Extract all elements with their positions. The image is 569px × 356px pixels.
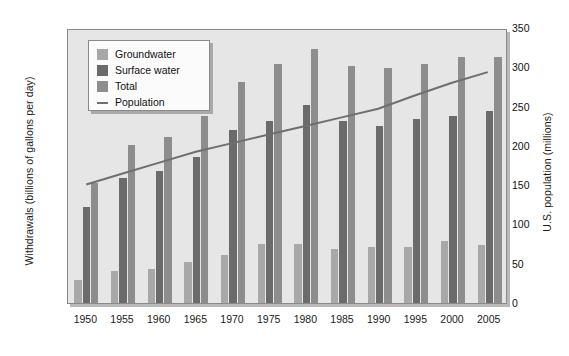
- y-tick-right: 0: [512, 297, 552, 309]
- bar-groundwater-1995: [404, 247, 411, 303]
- y-tick-right: 150: [512, 179, 552, 191]
- bar-surface-water-2005: [486, 111, 493, 304]
- legend-color-swatch: [97, 65, 108, 76]
- y-axis-left-title: Withdrawals (billions of gallons per day…: [23, 56, 35, 286]
- x-tick: 1990: [359, 313, 399, 325]
- x-tick: 1960: [139, 313, 179, 325]
- x-tick: 1985: [322, 313, 362, 325]
- bar-groundwater-1985: [331, 249, 338, 303]
- bar-surface-water-1985: [339, 121, 346, 303]
- x-tick: 2005: [469, 313, 509, 325]
- bar-total-1960: [164, 137, 171, 303]
- bar-total-1950: [91, 183, 98, 303]
- chart-legend: GroundwaterSurface waterTotalPopulation: [88, 40, 210, 111]
- bar-total-1965: [201, 116, 208, 303]
- bar-groundwater-1980: [294, 244, 301, 303]
- y-tick-right: 250: [512, 101, 552, 113]
- bar-groundwater-1975: [258, 244, 265, 303]
- bar-total-1980: [311, 49, 318, 303]
- bar-surface-water-1965: [193, 157, 200, 303]
- bar-groundwater-2000: [441, 241, 448, 303]
- bar-groundwater-1955: [111, 271, 118, 303]
- bar-groundwater-1965: [184, 262, 191, 303]
- x-tick: 1995: [395, 313, 435, 325]
- legend-color-swatch: [97, 81, 108, 92]
- bar-groundwater-1950: [74, 280, 81, 303]
- bar-surface-water-1980: [303, 105, 310, 303]
- bar-groundwater-1990: [368, 247, 375, 303]
- legend-label: Population: [115, 97, 165, 108]
- bar-total-1955: [128, 145, 135, 303]
- bar-groundwater-1960: [148, 269, 155, 303]
- bar-total-2000: [458, 57, 465, 303]
- y-tick-right: 50: [512, 258, 552, 270]
- bar-surface-water-2000: [449, 116, 456, 303]
- legend-label: Surface water: [115, 65, 180, 76]
- bar-surface-water-1955: [119, 178, 126, 303]
- legend-item: Total: [97, 79, 209, 94]
- x-tick: 1955: [102, 313, 142, 325]
- bar-surface-water-1995: [413, 119, 420, 303]
- x-tick: 2000: [432, 313, 472, 325]
- bar-surface-water-1960: [156, 171, 163, 303]
- bar-total-2005: [494, 57, 501, 303]
- legend-item: Groundwater: [97, 47, 209, 62]
- y-tick-right: 100: [512, 218, 552, 230]
- x-tick: 1965: [175, 313, 215, 325]
- legend-label: Groundwater: [115, 49, 176, 60]
- y-tick-right: 350: [512, 22, 552, 34]
- bar-total-1990: [384, 68, 391, 303]
- legend-label: Total: [115, 81, 137, 92]
- x-tick: 1980: [285, 313, 325, 325]
- legend-line-swatch: [97, 102, 108, 104]
- bar-surface-water-1975: [266, 121, 273, 303]
- legend-color-swatch: [97, 49, 108, 60]
- bar-total-1995: [421, 64, 428, 303]
- y-tick-right: 200: [512, 140, 552, 152]
- bar-total-1970: [238, 82, 245, 303]
- bar-groundwater-1970: [221, 255, 228, 303]
- bar-total-1975: [274, 64, 281, 303]
- x-tick: 1950: [65, 313, 105, 325]
- bar-surface-water-1990: [376, 126, 383, 303]
- water-withdrawals-chart: Withdrawals (billions of gallons per day…: [0, 0, 569, 356]
- bar-groundwater-2005: [478, 245, 485, 303]
- bar-surface-water-1950: [83, 207, 90, 303]
- legend-item: Population: [97, 95, 209, 110]
- bar-surface-water-1970: [229, 130, 236, 303]
- legend-item: Surface water: [97, 63, 209, 78]
- x-tick: 1970: [212, 313, 252, 325]
- y-tick-right: 300: [512, 61, 552, 73]
- bar-total-1985: [348, 66, 355, 303]
- x-tick: 1975: [249, 313, 289, 325]
- y-axis-right-title: U.S. population (millions): [541, 57, 553, 287]
